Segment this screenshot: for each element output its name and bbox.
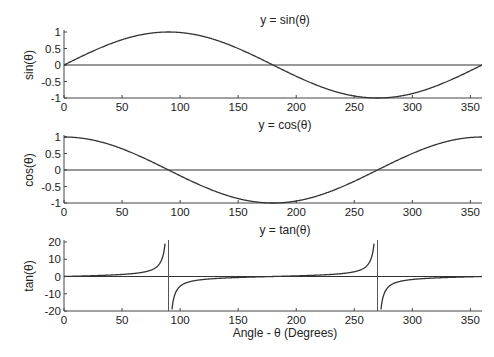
x-tick-label: 100 [171,314,190,326]
x-tick-label: 250 [345,206,364,218]
y-tick-label: 0.5 [45,43,61,55]
x-tick-label: 50 [116,206,129,218]
y-tick-label: -1 [51,197,61,209]
x-tick-label: 0 [61,101,67,113]
x-tick-label: 150 [229,101,248,113]
x-tick-label: 300 [403,101,422,113]
x-tick-label: 0 [61,206,67,218]
x-tick-label: 250 [345,314,364,326]
y-tick-label: 10 [48,253,61,265]
plot-cos: y = cos(θ)cos(θ)10.50-0.5-10501001502002… [22,118,482,218]
y-tick-label: -0.5 [41,76,61,88]
x-tick-label: 200 [287,314,306,326]
y-axis-label: cos(θ) [22,153,36,186]
y-tick-label: 0 [55,59,61,71]
trig-functions-figure: y = sin(θ)sin(θ)10.50-0.5-10501001502002… [0,0,494,357]
x-tick-label: 150 [229,314,248,326]
x-tick-label: 200 [287,101,306,113]
y-tick-label: 20 [48,236,61,248]
x-tick-label: 350 [461,101,480,113]
y-tick-label: -10 [44,288,61,300]
y-tick-label: 0 [55,164,61,176]
y-tick-label: -0.5 [41,181,61,193]
y-tick-label: 0 [55,271,61,283]
plot-sin: y = sin(θ)sin(θ)10.50-0.5-10501001502002… [22,13,482,113]
plot-title: y = sin(θ) [260,13,310,27]
y-tick-label: 0.5 [45,148,61,160]
plot-title: y = cos(θ) [258,118,311,132]
y-tick-label: 1 [55,131,61,143]
x-tick-label: 350 [461,314,480,326]
x-tick-label: 200 [287,206,306,218]
y-axis-label: sin(θ) [22,50,36,80]
x-tick-label: 300 [403,314,422,326]
x-axis-label: Angle - θ (Degrees) [233,326,338,340]
y-axis-label: tan(θ) [22,260,36,291]
plot-tan: y = tan(θ)tan(θ)20100-10-200501001502002… [22,223,482,340]
y-tick-label: -20 [44,305,61,317]
x-tick-label: 100 [171,206,190,218]
y-tick-label: -1 [51,92,61,104]
x-tick-label: 350 [461,206,480,218]
x-tick-label: 300 [403,206,422,218]
x-tick-label: 50 [116,314,129,326]
y-tick-label: 1 [55,26,61,38]
plot-title: y = tan(θ) [259,223,310,237]
x-tick-label: 250 [345,101,364,113]
x-tick-label: 100 [171,101,190,113]
x-tick-label: 50 [116,101,129,113]
x-tick-label: 0 [61,314,67,326]
x-tick-label: 150 [229,206,248,218]
